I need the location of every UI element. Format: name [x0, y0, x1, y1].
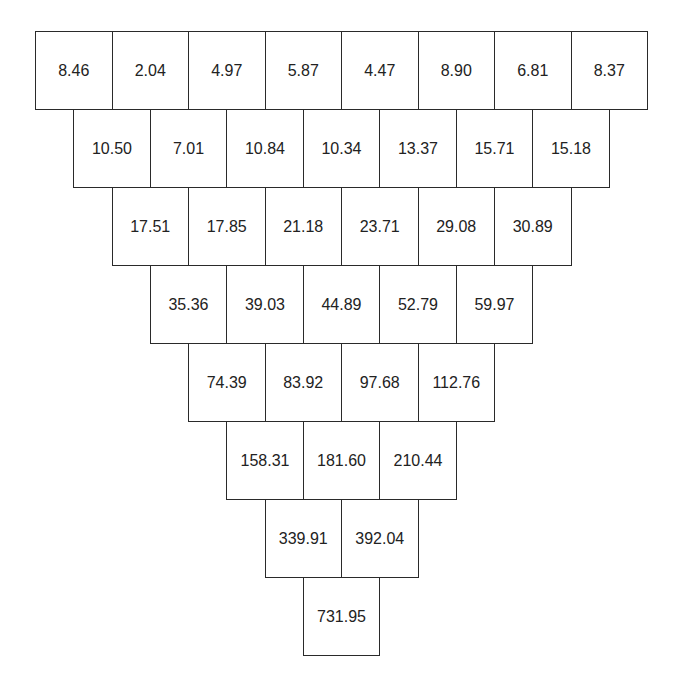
pyramid-cell: 44.89: [303, 265, 381, 344]
pyramid-cell: 731.95: [303, 577, 381, 656]
pyramid-cell: 15.18: [532, 109, 610, 188]
pyramid-cell: 2.04: [112, 31, 190, 110]
pyramid-cell: 8.37: [571, 31, 649, 110]
pyramid-cell: 15.71: [456, 109, 534, 188]
pyramid-cell: 10.50: [73, 109, 151, 188]
pyramid-cell: 97.68: [341, 343, 419, 422]
pyramid-cell: 17.51: [112, 187, 190, 266]
pyramid-cell: 6.81: [494, 31, 572, 110]
pyramid-cell: 35.36: [150, 265, 228, 344]
pyramid-cell: 74.39: [188, 343, 266, 422]
pyramid-cell: 17.85: [188, 187, 266, 266]
pyramid-cell: 210.44: [379, 421, 457, 500]
pyramid-cell: 10.84: [226, 109, 304, 188]
pyramid-cell: 21.18: [265, 187, 343, 266]
pyramid-cell: 52.79: [379, 265, 457, 344]
pyramid-cell: 181.60: [303, 421, 381, 500]
pyramid-cell: 10.34: [303, 109, 381, 188]
pyramid-cell: 7.01: [150, 109, 228, 188]
pyramid-cell: 8.90: [418, 31, 496, 110]
pyramid-cell: 392.04: [341, 499, 419, 578]
pyramid-cell: 158.31: [226, 421, 304, 500]
pyramid-cell: 4.97: [188, 31, 266, 110]
pyramid-cell: 8.46: [35, 31, 113, 110]
pyramid-cell: 13.37: [379, 109, 457, 188]
pyramid-cell: 339.91: [265, 499, 343, 578]
pyramid-cell: 5.87: [265, 31, 343, 110]
pyramid-cell: 83.92: [265, 343, 343, 422]
pyramid-cell: 59.97: [456, 265, 534, 344]
pyramid-cell: 30.89: [494, 187, 572, 266]
pyramid-cell: 112.76: [418, 343, 496, 422]
pyramid-cell: 29.08: [418, 187, 496, 266]
pyramid-cell: 23.71: [341, 187, 419, 266]
pyramid-cell: 4.47: [341, 31, 419, 110]
pyramid-cell: 39.03: [226, 265, 304, 344]
number-pyramid: 8.462.044.975.874.478.906.818.3710.507.0…: [0, 0, 673, 700]
